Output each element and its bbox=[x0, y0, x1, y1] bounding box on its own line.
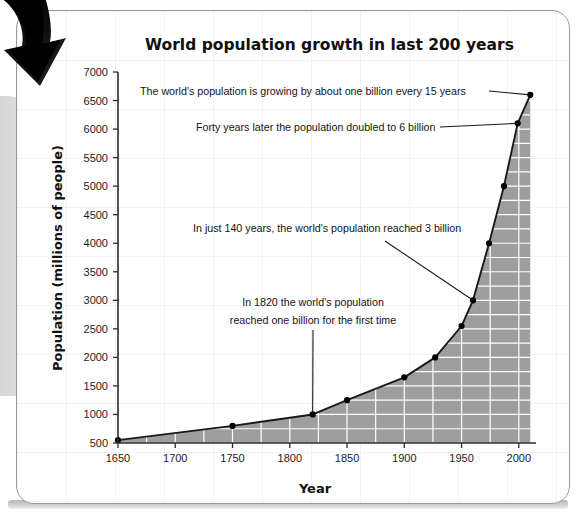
data-point-1950 bbox=[458, 323, 464, 329]
y-tick-1500: 1500 bbox=[84, 380, 108, 392]
y-tick-5500: 5500 bbox=[84, 152, 108, 164]
annotation-doubled-to-6-billion: Forty years later the population doubled… bbox=[196, 121, 435, 133]
y-tick-3500: 3500 bbox=[84, 266, 108, 278]
annotation-one-billion-line1: In 1820 the world's population bbox=[242, 296, 384, 308]
y-tick-6000: 6000 bbox=[84, 123, 108, 135]
y-tick-5000: 5000 bbox=[84, 180, 108, 192]
x-tick-1800: 1800 bbox=[278, 452, 302, 464]
y-axis-title: Population (millions of people) bbox=[50, 145, 65, 371]
leader-line-ann-6-billion bbox=[440, 123, 518, 127]
y-tick-4000: 4000 bbox=[84, 237, 108, 249]
y-axis-tick-labels: 5001000150020002500300035004000450050005… bbox=[84, 66, 108, 449]
data-point-1750 bbox=[229, 423, 235, 429]
y-tick-4500: 4500 bbox=[84, 209, 108, 221]
x-axis-title: Year bbox=[298, 481, 332, 496]
x-axis-tick-labels: 16501700175018001850190019502000 bbox=[106, 452, 531, 464]
y-tick-2500: 2500 bbox=[84, 323, 108, 335]
y-tick-6500: 6500 bbox=[84, 95, 108, 107]
y-tick-7000: 7000 bbox=[84, 66, 108, 78]
data-point-1987 bbox=[501, 183, 507, 189]
x-tick-1650: 1650 bbox=[106, 452, 130, 464]
leader-line-ann-3-billion bbox=[385, 241, 473, 300]
x-tick-2000: 2000 bbox=[507, 452, 531, 464]
data-point-1927 bbox=[432, 354, 438, 360]
data-point-1900 bbox=[401, 374, 407, 380]
y-tick-2000: 2000 bbox=[84, 351, 108, 363]
x-tick-1900: 1900 bbox=[392, 452, 416, 464]
data-point-1974 bbox=[486, 240, 492, 246]
annotation-every-15-years: The world's population is growing by abo… bbox=[140, 85, 466, 97]
y-tick-1000: 1000 bbox=[84, 408, 108, 420]
annotation-reached-3-billion: In just 140 years, the world's populatio… bbox=[193, 222, 461, 234]
leader-line-ann-15-years bbox=[489, 91, 530, 95]
data-point-1850 bbox=[344, 397, 350, 403]
screenshot-root: 5001000150020002500300035004000450050005… bbox=[0, 0, 584, 518]
x-tick-1700: 1700 bbox=[163, 452, 187, 464]
area-fill bbox=[118, 95, 530, 443]
annotation-one-billion-line2: reached one billion for the first time bbox=[230, 314, 396, 326]
x-tick-1950: 1950 bbox=[449, 452, 473, 464]
x-tick-1750: 1750 bbox=[220, 452, 244, 464]
y-tick-3000: 3000 bbox=[84, 294, 108, 306]
chart-canvas: 5001000150020002500300035004000450050005… bbox=[0, 0, 584, 518]
x-tick-1850: 1850 bbox=[335, 452, 359, 464]
chart-title: World population growth in last 200 year… bbox=[145, 36, 514, 54]
y-tick-500: 500 bbox=[90, 437, 108, 449]
